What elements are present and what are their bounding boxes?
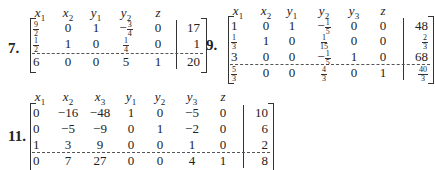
matrix-cell: 23: [404, 33, 428, 51]
matrix-cell: 1: [371, 65, 395, 81]
matrix-cell: 0: [33, 105, 57, 121]
matrix-cell: 1: [119, 105, 143, 121]
matrix-cell: 0: [56, 20, 80, 36]
matrix-cell: −48: [88, 105, 112, 121]
right-bracket: [428, 16, 434, 84]
matrix-cell: 12: [33, 36, 57, 54]
matrix-cell: −16: [56, 105, 80, 121]
matrix-cell: 0: [342, 33, 366, 49]
column-header-z: z: [213, 89, 233, 105]
matrix-cell: 1: [254, 33, 278, 49]
matrix-cell: −15: [312, 49, 336, 67]
matrix-cell: 1: [176, 36, 200, 52]
matrix-cell: 1: [148, 121, 172, 137]
matrix-cell: 0: [342, 65, 366, 81]
matrix-cell: 0: [371, 49, 395, 65]
matrix-cell: 0: [280, 65, 304, 81]
matrix-cell: 92: [33, 20, 57, 38]
matrix-cell: 0: [371, 18, 395, 34]
matrix-cell: 3: [231, 49, 255, 65]
matrix-cell: 0: [146, 36, 170, 52]
matrix-cell: 0: [254, 65, 278, 81]
matrix-cell: 1: [342, 49, 366, 65]
matrix-cell: 1: [146, 54, 170, 70]
matrix-cell: 3: [56, 137, 80, 153]
matrix-cell: −5: [56, 121, 80, 137]
matrix-cell: 0: [148, 153, 172, 169]
matrix-cell: 1: [84, 20, 108, 36]
matrix-cell: 5: [114, 54, 138, 70]
matrix-cell: 53: [231, 65, 255, 83]
matrix-cell: 0: [280, 33, 304, 49]
matrix-cell: 20: [176, 54, 200, 70]
matrix-cell: 48: [404, 18, 428, 34]
column-header-z: z: [148, 5, 168, 21]
matrix-cell: 0: [56, 54, 80, 70]
matrix-cell: 0: [148, 105, 172, 121]
matrix-cell: 0: [146, 20, 170, 36]
matrix-cell: 1: [33, 137, 57, 153]
matrix-cell: 115: [312, 33, 336, 51]
matrix-cell: 10: [244, 105, 268, 121]
matrix-cell: 1: [280, 18, 304, 34]
matrix-cell: 0: [148, 137, 172, 153]
matrix-cell: 17: [176, 20, 200, 36]
column-header-z: z: [373, 3, 393, 19]
right-bracket: [268, 103, 274, 170]
matrix-cell: 0: [84, 36, 108, 52]
matrix-cell: −5: [180, 105, 204, 121]
matrix-cell: 6: [33, 54, 57, 70]
matrix-cell: 0: [342, 18, 366, 34]
matrix-cell: −34: [114, 20, 138, 38]
matrix-cell: 0: [33, 153, 57, 169]
matrix-cell: 68: [404, 49, 428, 65]
problem-number: 7.: [8, 40, 19, 57]
matrix-cell: 0: [119, 121, 143, 137]
problem-number: 11.: [8, 128, 26, 145]
matrix-cell: 1: [211, 153, 235, 169]
matrix-cell: 43: [312, 65, 336, 83]
matrix-cell: 13: [231, 33, 255, 51]
matrix-cell: 0: [84, 54, 108, 70]
matrix-cell: 7: [56, 153, 80, 169]
column-header-y3: y3: [182, 89, 202, 107]
matrix-cell: 0: [119, 137, 143, 153]
matrix-cell: 0: [211, 105, 235, 121]
matrix-cell: 0: [254, 49, 278, 65]
column-header-x3: x3: [90, 89, 110, 107]
matrix-cell: 1: [231, 18, 255, 34]
matrix-cell: 1: [56, 36, 80, 52]
matrix-cell: 4: [180, 153, 204, 169]
column-header-x2: x2: [58, 89, 78, 107]
matrix-cell: 6: [244, 121, 268, 137]
matrix-cell: 0: [211, 121, 235, 137]
matrix-cell: 14: [114, 36, 138, 54]
matrix-cell: 403: [404, 65, 428, 83]
matrix-cell: −9: [88, 121, 112, 137]
matrix-cell: 27: [88, 153, 112, 169]
matrix-cell: 0: [33, 121, 57, 137]
matrix-cell: −2: [180, 121, 204, 137]
matrix-cell: 0: [371, 33, 395, 49]
matrix-cell: 0: [280, 49, 304, 65]
column-header-y1: y1: [121, 89, 141, 107]
matrix-cell: 2: [244, 137, 268, 153]
matrix-cell: 8: [244, 153, 268, 169]
column-header-y2: y2: [150, 89, 170, 107]
matrix-cell: 0: [254, 18, 278, 34]
problem-number: 9.: [206, 37, 217, 54]
matrix-cell: 9: [88, 137, 112, 153]
matrix-cell: 0: [119, 153, 143, 169]
matrix-cell: 0: [211, 137, 235, 153]
matrix-cell: 1: [180, 137, 204, 153]
